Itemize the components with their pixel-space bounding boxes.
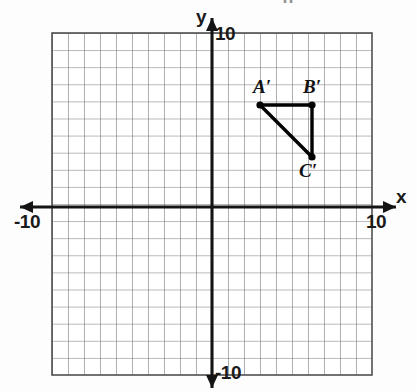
x-axis-max-tick-label: 10	[366, 211, 386, 233]
y-axis-label: y	[196, 6, 207, 28]
vertex-label-a-prime: A′	[253, 76, 271, 98]
vertex-point-b-prime	[308, 101, 315, 108]
vertex-label-b-prime: B′	[303, 76, 321, 98]
coordinate-grid-svg	[0, 0, 417, 391]
x-axis-min-tick-label: -10	[14, 211, 40, 233]
y-axis-max-tick-label: 10	[215, 23, 235, 45]
y-axis-min-tick-label: -10	[215, 362, 241, 384]
vertex-label-c-prime: C′	[299, 160, 317, 182]
x-axis-label: x	[396, 186, 407, 208]
vertex-point-a-prime	[256, 101, 263, 108]
coordinate-plane-figure: g	[0, 0, 417, 391]
